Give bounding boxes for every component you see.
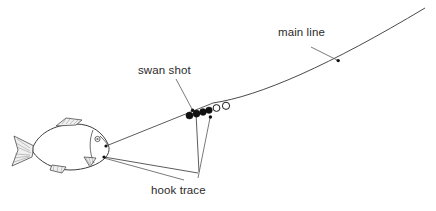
bead-1 xyxy=(213,105,220,112)
fish-eye-pupil xyxy=(96,138,98,140)
main-line-leader xyxy=(311,47,337,60)
hook-trace-leader-right xyxy=(198,118,210,178)
hook-trace-leader-dot-right xyxy=(209,115,212,118)
swan-shot-1 xyxy=(186,112,193,119)
swan-shot-3 xyxy=(200,109,207,116)
swan-shot-4 xyxy=(206,107,213,114)
hook-point-upper xyxy=(104,144,107,147)
hook-point-lower xyxy=(102,155,105,158)
swan-shot-leader xyxy=(176,79,192,109)
bead-group xyxy=(213,102,229,111)
main-line-label: main line xyxy=(278,26,325,38)
main-line-path xyxy=(213,8,425,103)
fish-body xyxy=(33,124,109,170)
diagram-canvas: main line swan shot hook trace xyxy=(0,0,436,211)
fish-illustration xyxy=(12,118,109,173)
hook-trace-line-upper xyxy=(196,113,199,172)
hook-trace-label: hook trace xyxy=(151,184,206,196)
bead-2 xyxy=(222,102,229,109)
swan-shot-label: swan shot xyxy=(138,64,191,76)
main-line-leader-dot xyxy=(337,59,340,62)
fishing-rig-diagram: main line swan shot hook trace xyxy=(0,0,436,211)
swan-shot-leader-dot xyxy=(191,109,194,112)
